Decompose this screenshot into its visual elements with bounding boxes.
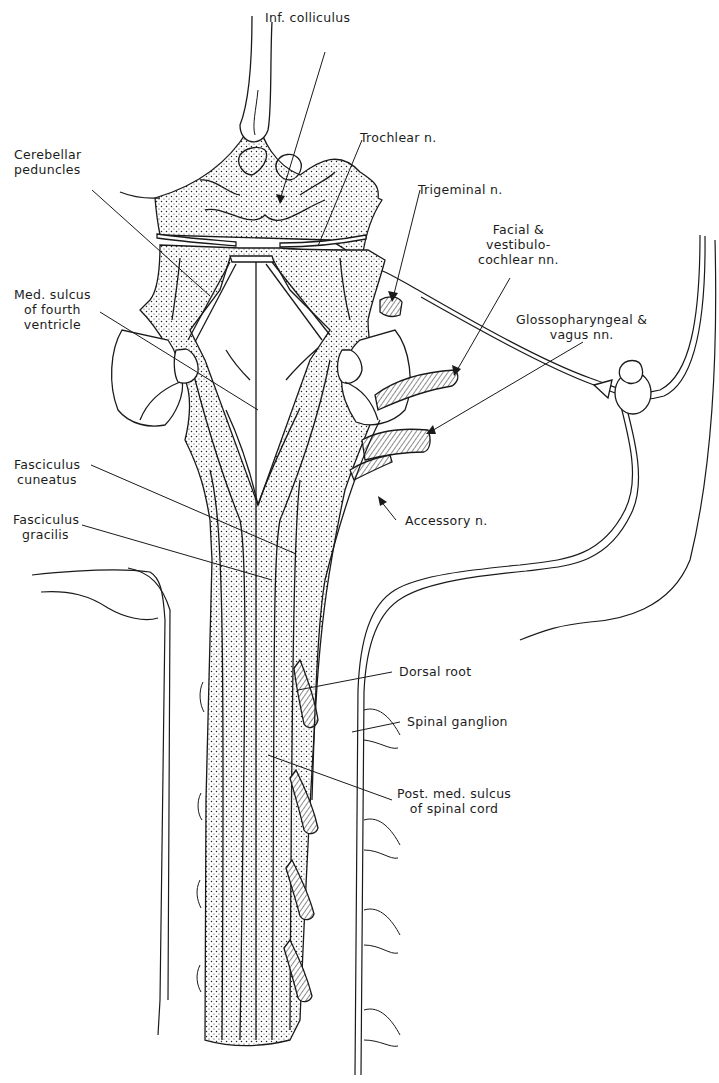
anatomy-figure: Inf. colliculus Trochlear n. Cerebellar … [0, 0, 719, 1083]
label-spinal-ganglion: Spinal ganglion [407, 714, 508, 729]
skull-outline-right [355, 235, 716, 1075]
spinal-ganglia [364, 709, 400, 1046]
label-dorsal-root: Dorsal root [399, 664, 471, 679]
label-glossopharyngeal-vagus-nerves: Glossopharyngeal & vagus nn. [516, 312, 647, 342]
brainstem-illustration [0, 0, 719, 1083]
label-fasciculus-cuneatus: Fasciculus cuneatus [14, 457, 80, 487]
midbrain-tectum [120, 16, 382, 260]
label-trochlear-nerve: Trochlear n. [360, 130, 437, 145]
label-facial-vestibulocochlear-nerves: Facial & vestibulo- cochlear nn. [478, 222, 559, 267]
label-accessory-nerve: Accessory n. [405, 513, 487, 528]
label-trigeminal-nerve: Trigeminal n. [418, 182, 503, 197]
skull-outline-left [32, 568, 204, 1035]
label-cerebellar-peduncles: Cerebellar peduncles [14, 147, 81, 177]
label-fasciculus-gracilis: Fasciculus gracilis [13, 512, 79, 542]
label-post-med-sulcus-spinal-cord: Post. med. sulcus of spinal cord [397, 786, 511, 816]
label-med-sulcus-fourth-ventricle: Med. sulcus of fourth ventricle [14, 287, 91, 332]
label-inf-colliculus: Inf. colliculus [265, 10, 350, 25]
